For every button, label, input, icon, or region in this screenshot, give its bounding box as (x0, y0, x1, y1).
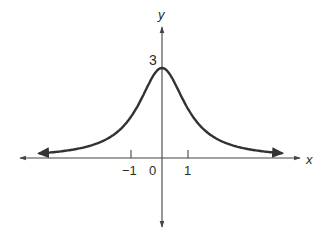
x-tick-label-neg1: −1 (122, 164, 137, 177)
peak-label: 3 (149, 53, 157, 67)
x-tick-label-1: 1 (184, 164, 191, 177)
x-axis-label: x (306, 153, 313, 166)
x-tick-label-0: 0 (149, 164, 156, 177)
curve (40, 68, 282, 153)
function-graph (0, 0, 330, 248)
y-axis-label: y (158, 8, 165, 21)
